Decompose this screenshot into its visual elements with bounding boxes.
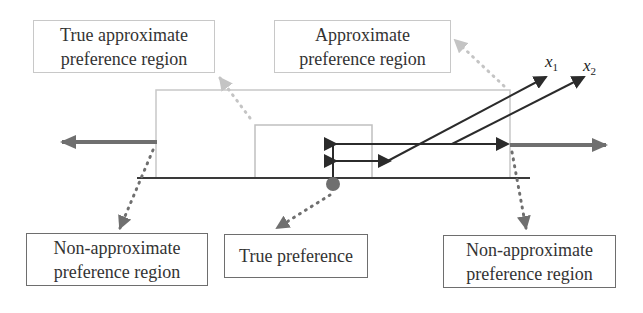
label-approx-region: Approximate preference region [274,20,451,73]
label-non-approx-right: Non-approximate preference region [443,235,616,288]
label-line: preference region [444,262,615,286]
x2-vector [452,77,584,144]
label-line: preference region [27,260,207,284]
pointer-true-approx [220,78,250,118]
label-true-approx-region: True approximate preference region [33,20,215,73]
label-non-approx-left: Non-approximate preference region [26,233,208,286]
pointer-non-approx-left [120,150,153,228]
pointer-approx [455,40,504,86]
label-line: Non-approximate [444,238,615,262]
true-preference-point [326,177,340,191]
label-line: preference region [275,47,450,71]
pointer-non-approx-right [512,152,526,228]
pointer-true-preference [277,195,330,228]
x1-label: x1 [545,52,558,73]
label-true-preference: True preference [224,234,368,278]
label-line: preference region [34,47,214,71]
label-line: Approximate [275,23,450,47]
label-line: True preference [225,244,367,268]
label-line: Non-approximate [27,236,207,260]
true-approx-region-outline [255,125,372,178]
x2-label: x2 [583,56,596,77]
label-line: True approximate [34,23,214,47]
